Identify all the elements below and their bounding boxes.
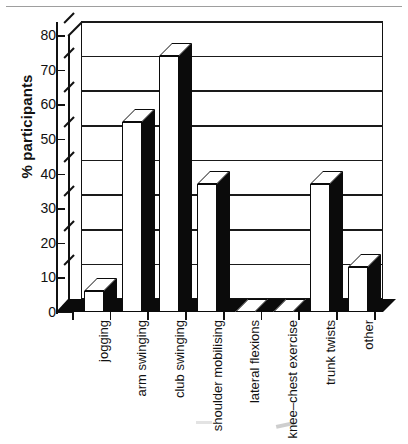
y-tick-connector-10 <box>56 264 70 278</box>
bar-trunk-twists <box>310 171 330 312</box>
bar-arm-swinging <box>122 109 142 312</box>
plot-area: 01020304050607080 joggingarm swingingclu… <box>0 0 408 444</box>
bar-jogging <box>84 278 104 312</box>
bar-front-face <box>348 267 368 312</box>
bar-front-face <box>197 184 217 312</box>
x-tick-2 <box>147 312 149 320</box>
x-label-lateral-flexions: lateral flexions <box>247 320 262 403</box>
bar-side-face <box>179 43 192 299</box>
y-tick-label-0: 0 <box>30 305 56 319</box>
x-label-trunk-twists: trunk twists <box>323 320 338 385</box>
bar-shoulder-mobilising <box>197 171 217 312</box>
x-tick-6 <box>298 312 300 320</box>
x-tick-7 <box>336 312 338 320</box>
x-tick-3 <box>185 312 187 320</box>
x-label-jogging: jogging <box>96 320 111 362</box>
y-tick-connector-20 <box>56 230 70 244</box>
x-label-knee-chest-exercise: knee–chest exercise <box>285 320 300 439</box>
y-tick-connector-60 <box>56 91 70 105</box>
x-label-club-swinging: club swinging <box>172 320 187 398</box>
x-label-arm-swinging: arm swinging <box>134 320 149 397</box>
bar-front-face <box>84 291 104 312</box>
bar-club-swinging <box>159 43 179 312</box>
y-tick-connector-80 <box>56 22 70 36</box>
bar-other <box>348 254 368 312</box>
y-tick-label-60: 60 <box>30 97 56 111</box>
y-tick-label-10: 10 <box>30 270 56 284</box>
bar-side-face <box>217 171 230 299</box>
bar-front-face <box>310 184 330 312</box>
gridline-70 <box>81 56 383 58</box>
gridline-60 <box>81 90 383 92</box>
y-tick-label-40: 40 <box>30 167 56 181</box>
bar-side-face <box>142 109 155 299</box>
bar-front-face <box>159 56 179 312</box>
x-label-shoulder-mobilising: shoulder mobilising <box>210 320 225 431</box>
plot-floor-right-corner <box>383 299 396 312</box>
bar-side-face <box>330 171 343 299</box>
y-tick-connector-40 <box>56 161 70 175</box>
y-tick-label-70: 70 <box>30 63 56 77</box>
x-label-other: other <box>361 320 376 350</box>
chart-figure: % participants 01020304050607080 jogging… <box>0 0 408 444</box>
plot-floor <box>68 299 383 312</box>
y-tick-connector-70 <box>56 57 70 71</box>
bar-lateral-flexions <box>235 299 255 312</box>
bar-knee-chest-exercise <box>273 299 293 312</box>
y-tick-label-80: 80 <box>30 28 56 42</box>
y-tick-connector-50 <box>56 126 70 140</box>
y-tick-connector-30 <box>56 195 70 209</box>
gridline-80 <box>81 21 383 23</box>
plot-floor-left-corner <box>56 299 68 312</box>
y-tick-label-20: 20 <box>30 236 56 250</box>
x-tick-1 <box>110 312 112 320</box>
bar-front-face <box>122 122 142 312</box>
x-tick-0 <box>72 312 74 320</box>
y-tick-label-30: 30 <box>30 201 56 215</box>
x-tick-5 <box>261 312 263 320</box>
y-tick-label-50: 50 <box>30 132 56 146</box>
x-tick-4 <box>223 312 225 320</box>
